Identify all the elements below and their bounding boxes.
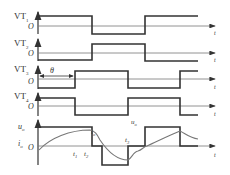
vt4-waveform (38, 98, 198, 115)
vt4-t-label: t (214, 111, 216, 117)
vt4-label: VT4 (14, 91, 29, 103)
waveform-diagram: VT1 O t VT2 O t θ VT3 O t VT4 O t (0, 0, 230, 175)
vt2-origin: O (28, 49, 34, 58)
vt2-waveform (38, 44, 198, 61)
t3-label: t3 (125, 136, 130, 145)
theta-label: θ (50, 66, 54, 75)
vt3-channel: θ VT3 O t (14, 64, 216, 90)
io-axis-label: io (18, 139, 23, 149)
vt4-origin: O (28, 102, 34, 111)
vt2-t-label: t (214, 57, 216, 63)
t1-label: t1 (73, 150, 77, 159)
output-channel: uo io O io uo t1 t2 t3 t (18, 118, 216, 165)
vt3-waveform (38, 71, 198, 88)
vt2-channel: VT2 O t (14, 38, 216, 63)
vt3-origin: O (28, 77, 34, 86)
vt1-waveform (38, 16, 198, 34)
vt1-t-label: t (214, 30, 216, 36)
output-t-label: t (214, 152, 216, 158)
vt4-channel: VT4 O t (14, 91, 216, 117)
vt1-channel: VT1 O t (14, 11, 216, 36)
vt1-label: VT1 (14, 11, 29, 23)
uo-axis-label: uo (18, 122, 25, 132)
vt1-origin: O (28, 22, 34, 31)
uo-curve-label: uo (131, 118, 138, 127)
vt3-t-label: t (214, 84, 216, 90)
io-curve (39, 130, 198, 160)
vt3-label: VT3 (14, 64, 29, 76)
output-origin: O (28, 143, 34, 152)
vt2-label: VT2 (14, 38, 29, 50)
t2-label: t2 (84, 150, 89, 159)
